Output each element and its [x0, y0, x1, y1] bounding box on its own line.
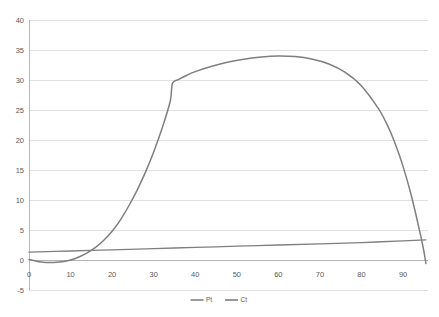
line-chart: 0102030405060708090 -50510152025303540 P…	[0, 0, 439, 317]
x-tick-label: 20	[108, 270, 116, 279]
chart-container: 0102030405060708090 -50510152025303540 P…	[0, 0, 439, 317]
x-tick-label: 40	[191, 270, 199, 279]
gridlines	[29, 20, 428, 290]
series-lines	[29, 56, 426, 264]
y-tick-label: 30	[16, 76, 24, 85]
y-tick-label: 20	[16, 136, 24, 145]
y-tick-label: -5	[17, 286, 24, 295]
x-tick-label: 60	[274, 270, 282, 279]
chart-legend: PtCt	[191, 296, 248, 303]
axis-lines	[29, 20, 428, 290]
x-tick-label: 70	[316, 270, 324, 279]
x-tick-label: 30	[150, 270, 158, 279]
x-axis-tick-labels: 0102030405060708090	[27, 270, 407, 279]
y-tick-label: 25	[16, 106, 24, 115]
y-tick-label: 0	[20, 256, 24, 265]
y-tick-label: 10	[16, 196, 24, 205]
series-line-pt	[29, 56, 426, 264]
x-tick-label: 90	[399, 270, 407, 279]
y-tick-label: 40	[16, 16, 24, 25]
x-tick-label: 0	[27, 270, 31, 279]
x-tick-label: 10	[66, 270, 74, 279]
x-tick-label: 80	[357, 270, 365, 279]
y-axis-tick-labels: -50510152025303540	[16, 16, 24, 295]
series-line-ct	[29, 240, 426, 252]
y-tick-label: 35	[16, 46, 24, 55]
x-tick-label: 50	[233, 270, 241, 279]
legend-label-ct: Ct	[241, 296, 248, 303]
y-tick-label: 5	[20, 226, 24, 235]
y-tick-label: 15	[16, 166, 24, 175]
legend-label-pt: Pt	[206, 296, 212, 303]
